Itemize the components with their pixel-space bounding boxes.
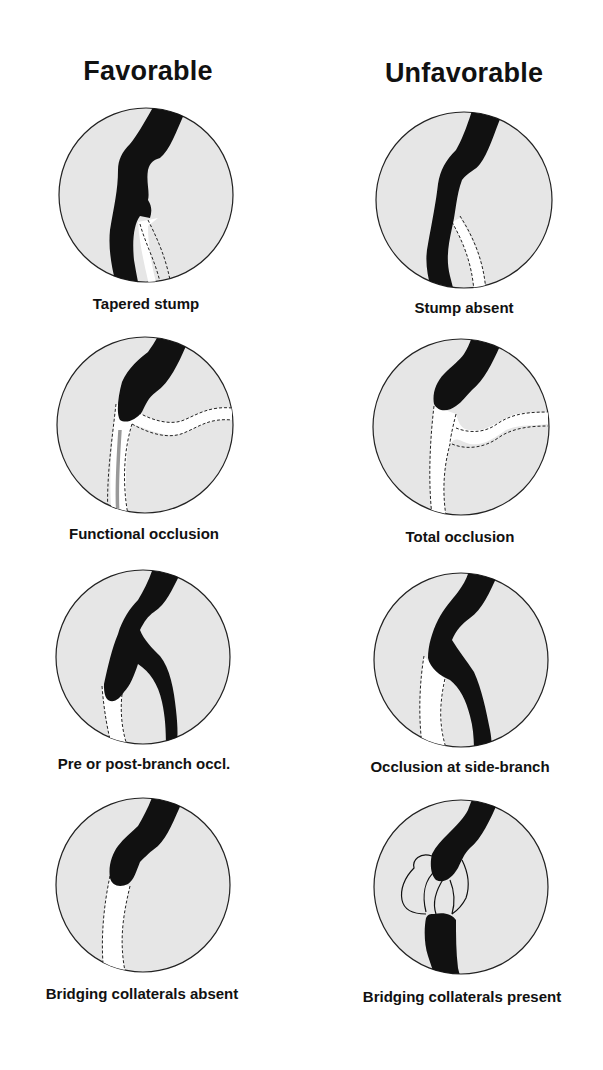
- caption-stump-absent: Stump absent: [314, 299, 603, 316]
- caption-collaterals-absent: Bridging collaterals absent: [0, 985, 292, 1002]
- vessel-bridging-collaterals-icon: [374, 795, 548, 992]
- caption-side-branch-occlusion: Occlusion at side-branch: [310, 758, 603, 775]
- vessel-stump-absent-icon: [376, 104, 552, 298]
- vessel-functional-occlusion-icon: [57, 336, 233, 515]
- caption-collaterals-present: Bridging collaterals present: [312, 988, 603, 1005]
- caption-functional-occlusion: Functional occlusion: [0, 525, 294, 542]
- caption-tapered-stump: Tapered stump: [0, 295, 296, 312]
- caption-total-occlusion: Total occlusion: [310, 528, 603, 545]
- caption-branch-occlusion: Pre or post-branch occl.: [0, 755, 294, 772]
- vessel-no-collaterals-icon: [56, 792, 230, 976]
- vessel-tapered-stump-icon: [59, 100, 233, 292]
- vessel-branch-occlusion-icon: [56, 565, 230, 752]
- vessel-side-branch-occlusion-icon: [374, 567, 548, 756]
- vessel-total-occlusion-icon: [373, 337, 549, 516]
